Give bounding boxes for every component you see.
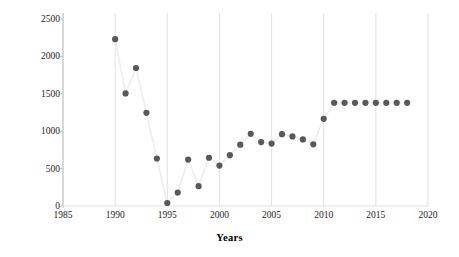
data-point-marker[interactable] (279, 131, 285, 137)
data-point-marker[interactable] (352, 100, 358, 106)
data-point-marker[interactable] (404, 100, 410, 106)
data-point-marker[interactable] (248, 131, 254, 137)
data-point-marker[interactable] (394, 100, 400, 106)
data-point-marker[interactable] (331, 100, 337, 106)
data-series-line (115, 39, 407, 203)
x-axis-title: Years (0, 232, 459, 243)
data-point-marker[interactable] (122, 90, 128, 96)
data-point-marker[interactable] (237, 142, 243, 148)
data-point-marker[interactable] (383, 100, 389, 106)
data-point-marker[interactable] (321, 116, 327, 122)
data-point-marker[interactable] (258, 139, 264, 145)
data-point-marker[interactable] (373, 100, 379, 106)
data-point-marker[interactable] (268, 140, 274, 146)
data-point-marker[interactable] (227, 152, 233, 158)
data-point-marker[interactable] (143, 110, 149, 116)
data-point-marker[interactable] (133, 65, 139, 71)
chart-container: Quantity Used (tonnes) 05001000150020002… (0, 0, 459, 257)
data-point-marker[interactable] (164, 200, 170, 206)
data-point-marker[interactable] (341, 100, 347, 106)
data-point-marker[interactable] (185, 157, 191, 163)
data-point-marker[interactable] (112, 36, 118, 42)
data-point-marker[interactable] (175, 189, 181, 195)
data-point-marker[interactable] (310, 141, 316, 147)
data-series-markers (112, 36, 410, 206)
data-point-marker[interactable] (195, 183, 201, 189)
data-point-marker[interactable] (362, 100, 368, 106)
gridlines (63, 13, 428, 206)
plot-area (0, 0, 459, 257)
data-point-marker[interactable] (206, 155, 212, 161)
data-point-marker[interactable] (289, 133, 295, 139)
data-point-marker[interactable] (300, 136, 306, 142)
data-point-marker[interactable] (216, 163, 222, 169)
data-point-marker[interactable] (154, 155, 160, 161)
